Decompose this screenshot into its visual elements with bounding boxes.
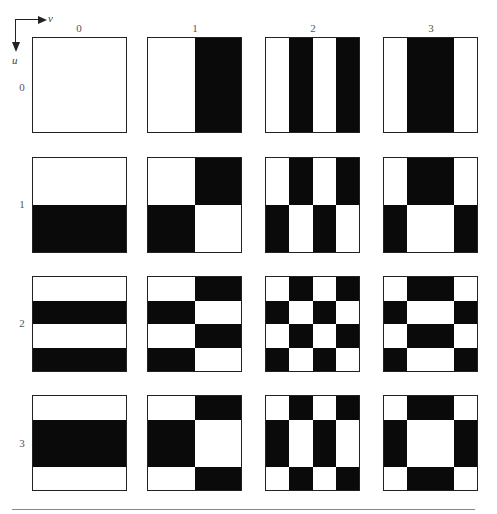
white-cell xyxy=(336,443,359,467)
black-cell xyxy=(454,348,477,372)
black-cell xyxy=(218,467,241,491)
row-label-0: 0 xyxy=(14,81,30,93)
white-cell xyxy=(313,324,336,348)
white-cell xyxy=(313,62,336,86)
black-cell xyxy=(80,205,103,229)
black-cell xyxy=(431,109,454,133)
white-cell xyxy=(103,182,126,206)
black-cell xyxy=(407,158,430,182)
black-cell xyxy=(103,348,126,372)
white-cell xyxy=(407,443,430,467)
basis-image-u0-v1 xyxy=(147,37,242,133)
white-cell xyxy=(384,85,407,109)
white-cell xyxy=(313,396,336,420)
white-cell xyxy=(384,109,407,133)
white-cell xyxy=(33,182,56,206)
white-cell xyxy=(148,38,171,62)
black-cell xyxy=(289,158,312,182)
black-cell xyxy=(148,348,171,372)
white-cell xyxy=(384,158,407,182)
white-cell xyxy=(33,85,56,109)
white-cell xyxy=(171,182,194,206)
black-cell xyxy=(171,348,194,372)
white-cell xyxy=(407,420,430,444)
black-cell xyxy=(195,277,218,301)
white-cell xyxy=(148,182,171,206)
white-cell xyxy=(218,205,241,229)
black-cell xyxy=(218,158,241,182)
black-cell xyxy=(289,109,312,133)
white-cell xyxy=(266,324,289,348)
black-cell xyxy=(33,420,56,444)
white-cell xyxy=(266,85,289,109)
black-cell xyxy=(336,324,359,348)
white-cell xyxy=(80,467,103,491)
black-cell xyxy=(148,420,171,444)
black-cell xyxy=(407,324,430,348)
white-cell xyxy=(266,38,289,62)
white-cell xyxy=(289,229,312,253)
black-cell xyxy=(148,301,171,325)
black-cell xyxy=(103,420,126,444)
black-cell xyxy=(56,443,79,467)
black-cell xyxy=(195,158,218,182)
white-cell xyxy=(171,277,194,301)
white-cell xyxy=(80,85,103,109)
white-cell xyxy=(103,396,126,420)
basis-image-u2-v3 xyxy=(383,276,478,372)
white-cell xyxy=(80,158,103,182)
black-cell xyxy=(195,396,218,420)
white-cell xyxy=(80,62,103,86)
black-cell xyxy=(407,109,430,133)
white-cell xyxy=(313,38,336,62)
black-cell xyxy=(431,158,454,182)
basis-image-u0-v3 xyxy=(383,37,478,133)
white-cell xyxy=(313,85,336,109)
white-cell xyxy=(407,205,430,229)
white-cell xyxy=(33,324,56,348)
white-cell xyxy=(384,182,407,206)
black-cell xyxy=(148,205,171,229)
white-cell xyxy=(148,324,171,348)
column-label-0: 0 xyxy=(71,22,87,34)
black-cell xyxy=(80,229,103,253)
white-cell xyxy=(454,277,477,301)
black-cell xyxy=(407,38,430,62)
u-axis-arrowhead-icon xyxy=(12,42,20,52)
black-cell xyxy=(266,301,289,325)
black-cell xyxy=(407,277,430,301)
black-cell xyxy=(431,182,454,206)
black-cell xyxy=(384,229,407,253)
black-cell xyxy=(313,348,336,372)
black-cell xyxy=(431,277,454,301)
black-cell xyxy=(336,158,359,182)
black-cell xyxy=(171,205,194,229)
black-cell xyxy=(454,420,477,444)
black-cell xyxy=(289,85,312,109)
white-cell xyxy=(218,229,241,253)
white-cell xyxy=(103,62,126,86)
white-cell xyxy=(103,38,126,62)
white-cell xyxy=(336,348,359,372)
column-label-2: 2 xyxy=(305,22,321,34)
white-cell xyxy=(289,301,312,325)
black-cell xyxy=(313,420,336,444)
black-cell xyxy=(103,301,126,325)
white-cell xyxy=(454,109,477,133)
black-cell xyxy=(336,182,359,206)
black-cell xyxy=(80,348,103,372)
white-cell xyxy=(313,109,336,133)
v-axis-label: v xyxy=(48,12,53,24)
black-cell xyxy=(195,38,218,62)
white-cell xyxy=(80,38,103,62)
black-cell xyxy=(33,348,56,372)
black-cell xyxy=(218,182,241,206)
black-cell xyxy=(56,420,79,444)
basis-image-u3-v2 xyxy=(265,395,360,491)
basis-image-u2-v0 xyxy=(32,276,127,372)
white-cell xyxy=(336,420,359,444)
black-cell xyxy=(336,38,359,62)
black-cell xyxy=(289,277,312,301)
white-cell xyxy=(407,229,430,253)
white-cell xyxy=(454,85,477,109)
